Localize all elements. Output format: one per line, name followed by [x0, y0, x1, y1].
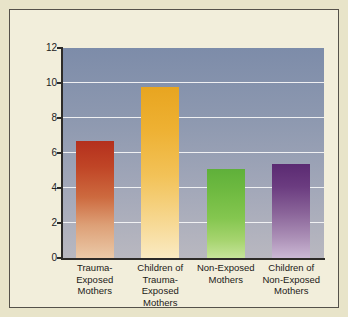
y-axis-tick-mark	[57, 257, 61, 259]
x-axis-category-label: Children ofNon-ExposedMothers	[259, 262, 325, 308]
category-label-line: Trauma-Exposed	[63, 262, 127, 285]
bar-slot	[128, 48, 194, 258]
bar[interactable]	[141, 87, 179, 259]
category-label-line: Children of	[129, 262, 193, 274]
x-axis-category-label: Children ofTrauma-ExposedMothers	[128, 262, 194, 308]
figure-container: Mean Extent of GR Methylation 024681012 …	[0, 0, 348, 317]
bar[interactable]	[76, 141, 114, 258]
x-axis-category-labels: Trauma-ExposedMothersChildren ofTrauma-E…	[62, 262, 324, 308]
y-axis-tick-mark	[57, 152, 61, 154]
category-label-line: Mothers	[260, 285, 324, 297]
bar[interactable]	[207, 169, 245, 258]
y-axis-tick-mark	[57, 47, 61, 49]
x-axis-line	[61, 258, 325, 260]
bar-slot	[193, 48, 259, 258]
category-label-line: Mothers	[194, 274, 258, 286]
y-axis-tick-label: 10	[46, 78, 57, 88]
category-label-line: Non-Exposed	[194, 262, 258, 274]
category-label-line: Trauma-	[129, 274, 193, 286]
y-axis-tick-mark	[57, 82, 61, 84]
category-label-line: Non-Exposed	[260, 274, 324, 286]
category-label-line: Mothers	[63, 285, 127, 297]
bar-slot	[259, 48, 325, 258]
y-axis-tick-mark	[57, 187, 61, 189]
bar-slot	[62, 48, 128, 258]
bar-series	[62, 48, 324, 258]
y-axis-line	[61, 47, 63, 260]
y-axis-tick-mark	[57, 222, 61, 224]
category-label-line: Children of	[260, 262, 324, 274]
plot-wrapper	[62, 48, 324, 258]
x-axis-category-label: Trauma-ExposedMothers	[62, 262, 128, 308]
category-label-line: Mothers	[129, 297, 193, 309]
y-axis-tick-label: 12	[46, 43, 57, 53]
bar[interactable]	[272, 164, 310, 259]
x-axis-category-label: Non-ExposedMothers	[193, 262, 259, 308]
category-label-line: Exposed	[129, 285, 193, 297]
y-axis-tick-labels: 024681012	[38, 48, 57, 258]
y-axis-tick-mark	[57, 117, 61, 119]
chart-panel: Mean Extent of GR Methylation 024681012 …	[9, 9, 339, 308]
